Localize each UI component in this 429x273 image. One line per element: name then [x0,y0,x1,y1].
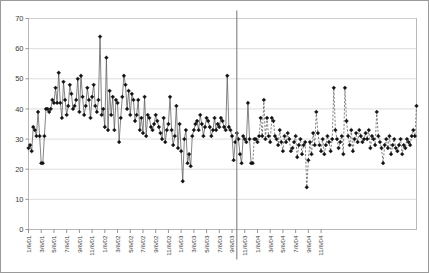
x-axis-tick-label: 9/6/02 [152,235,159,253]
x-axis-tick-label: 11/6/02 [165,235,172,256]
x-axis-tick-label: 9/6/03 [228,235,235,253]
y-axis-tick-label: 70 [15,14,23,23]
y-axis-tick-labels: 010203040506070 [15,14,23,234]
x-axis-tick-label: 3/6/04 [267,235,274,253]
x-axis-tick-label: 1/6/04 [254,235,261,253]
y-axis-tick-label: 30 [15,135,23,144]
x-axis-ticks [29,230,322,234]
x-axis-tick-label: 11/6/01 [88,235,95,256]
y-axis-tick-label: 40 [15,105,23,114]
x-axis-tick-label: 9/6/04 [305,235,312,253]
x-axis-tick-labels: 1/6/013/6/015/6/017/6/019/6/0111/6/011/6… [25,235,325,256]
x-axis-tick-label: 1/6/01 [25,235,32,253]
line-chart: 010203040506070 1/6/013/6/015/6/017/6/01… [0,0,429,273]
x-axis-tick-label: 9/6/01 [76,235,83,253]
x-axis-tick-label: 7/6/03 [216,235,223,253]
x-axis-tick-label: 3/6/03 [190,235,197,253]
x-axis-tick-label: 5/6/02 [127,235,134,253]
y-axis-tick-label: 0 [19,225,23,234]
x-axis-tick-label: 5/6/03 [203,235,210,253]
x-axis-tick-label: 7/6/02 [139,235,146,253]
x-axis-tick-label: 11/6/04 [317,235,324,256]
x-axis-tick-label: 11/6/03 [241,235,248,256]
x-axis-tick-label: 7/6/04 [292,235,299,253]
chart-container: 010203040506070 1/6/013/6/015/6/017/6/01… [0,0,429,273]
plot-frame [29,19,417,230]
y-axis-tick-label: 20 [15,165,23,174]
x-axis-tick-label: 5/6/04 [279,235,286,253]
y-axis-tick-label: 10 [15,195,23,204]
x-axis-tick-label: 1/6/03 [177,235,184,253]
x-axis-tick-label: 3/6/02 [114,235,121,253]
x-axis-tick-label: 3/6/01 [38,235,45,253]
y-axis-tick-label: 60 [15,44,23,53]
x-axis-tick-label: 7/6/01 [63,235,70,253]
x-axis-tick-label: 5/6/01 [50,235,57,253]
x-axis-tick-label: 1/6/02 [101,235,108,253]
y-axis-tick-label: 50 [15,74,23,83]
